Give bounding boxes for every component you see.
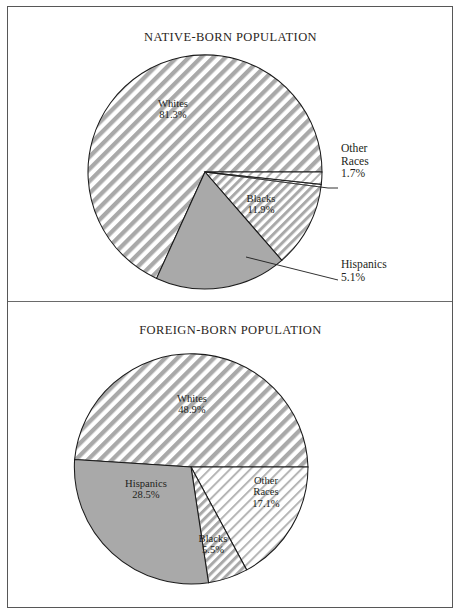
label-hispanics-foreign-name: Hispanics — [96, 478, 196, 489]
label-blacks-native: Blacks 11.9% — [221, 193, 301, 216]
native-born-pie-svg — [85, 52, 325, 292]
foreign-born-panel: FOREIGN-BORN POPULATION — [0, 301, 461, 616]
native-born-pie-chart — [85, 52, 325, 292]
label-blacks-native-name: Blacks — [221, 193, 301, 204]
callout-other-races-native: Other Races 1.7% — [341, 143, 369, 181]
label-whites-native-name: Whites — [128, 98, 218, 109]
label-blacks-native-value: 11.9% — [221, 204, 301, 215]
label-whites-native-value: 81.3% — [128, 109, 218, 120]
native-born-chart-title: NATIVE-BORN POPULATION — [0, 30, 461, 45]
native-born-panel: NATIVE-BORN POPULATION — [0, 0, 461, 301]
callout-hispanics-native: Hispanics 5.1% — [341, 259, 387, 284]
label-hispanics-foreign-value: 28.5% — [96, 489, 196, 500]
callout-hispanics-native-value: 5.1% — [341, 272, 387, 285]
label-hispanics-foreign: Hispanics 28.5% — [96, 478, 196, 501]
label-whites-foreign: Whites 48.9% — [147, 393, 237, 416]
label-blacks-foreign-name: Blacks — [180, 533, 246, 544]
label-other-races-foreign-line1: Other — [228, 475, 304, 486]
callout-other-races-native-value: 1.7% — [341, 168, 369, 181]
figure-page: NATIVE-BORN POPULATION — [0, 0, 461, 616]
label-other-races-foreign-line2: Races — [228, 486, 304, 497]
label-other-races-foreign: Other Races 17.1% — [228, 475, 304, 509]
label-whites-native: Whites 81.3% — [128, 98, 218, 121]
label-blacks-foreign-value: 5.5% — [180, 544, 246, 555]
label-other-races-foreign-value: 17.1% — [228, 498, 304, 509]
label-blacks-foreign: Blacks 5.5% — [180, 533, 246, 556]
callout-hispanics-native-name: Hispanics — [341, 259, 387, 272]
label-whites-foreign-value: 48.9% — [147, 404, 237, 415]
foreign-born-chart-title: FOREIGN-BORN POPULATION — [0, 323, 461, 338]
callout-other-races-native-line1: Other — [341, 143, 369, 156]
label-whites-foreign-name: Whites — [147, 393, 237, 404]
